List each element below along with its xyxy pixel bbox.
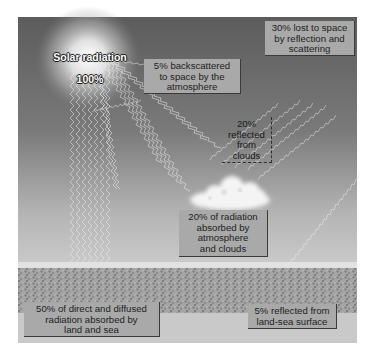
absorbed-land-sea-label: 50% of direct and diffused radiation abs…	[24, 302, 160, 337]
reflected-surface-label: 5% reflected from land-sea surface	[248, 304, 337, 329]
sun-label-title: Solar radiation	[53, 51, 127, 63]
absorbed-atmosphere-label: 20% of radiation absorbed by atmosphere …	[179, 210, 268, 257]
backscattered-label: 5% backscattered to space by the atmosph…	[144, 59, 241, 94]
sun-label-percent: 100%	[77, 73, 104, 85]
sun-label: Solar radiation 100%	[52, 41, 128, 85]
reflected-from-clouds-label: 20% reflected from clouds	[222, 117, 272, 163]
solar-radiation-diagram: Solar radiation 100% 5% backscattered to…	[0, 0, 384, 354]
lost-to-space-label: 30% lost to space by reflection and scat…	[265, 21, 355, 56]
